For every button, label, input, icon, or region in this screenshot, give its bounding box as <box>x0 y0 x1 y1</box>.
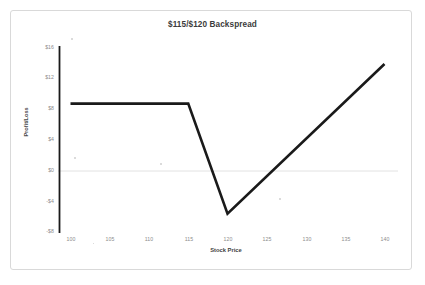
chart-page: $115/$120 Backspread $16 $12 $8 $4 $0 -$… <box>0 0 425 285</box>
scan-speckle <box>74 157 76 159</box>
plot-area <box>0 0 425 285</box>
scan-speckle <box>160 163 162 165</box>
scan-speckle <box>93 243 94 244</box>
scan-speckle <box>279 198 281 200</box>
profit-loss-line <box>71 64 385 214</box>
scan-speckle <box>71 38 73 40</box>
